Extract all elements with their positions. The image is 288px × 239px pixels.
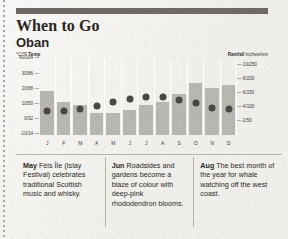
axis-tick-label: 30/86 — xyxy=(22,72,39,77)
axis-tick-label: — 6/150 xyxy=(237,91,254,96)
page-background: When to Go Oban °C/°F Temp Rainfall Inch… xyxy=(0,0,288,239)
month-label: F xyxy=(56,138,73,148)
month-label: M xyxy=(72,138,89,148)
axis-tick-label: — 8/200 xyxy=(237,77,254,82)
rainfall-bar xyxy=(189,83,203,136)
month-column xyxy=(155,59,172,135)
month-column xyxy=(138,59,155,135)
month-note: Aug The best month of the year for whale… xyxy=(193,155,282,229)
page-subtitle: Oban xyxy=(16,35,49,50)
bars-container xyxy=(39,59,237,135)
climate-chart: °C/°F Temp Rainfall Inches/mm 40/104 —30… xyxy=(16,52,268,150)
rainfall-bar xyxy=(123,110,137,135)
month-notes: May Fèis Île (Islay Festival) celebrates… xyxy=(16,155,282,229)
month-label: S xyxy=(171,138,188,148)
rainfall-axis: — 10/250— 8/200— 6/150— 4/100— 2/50 xyxy=(237,59,268,135)
temperature-dot xyxy=(93,103,100,110)
month-label: A xyxy=(155,138,172,148)
month-column xyxy=(204,59,221,135)
temperature-dot xyxy=(209,104,216,111)
header-rule xyxy=(16,8,268,14)
month-axis: JFMAMJJASOND xyxy=(39,138,237,148)
axis-tick-label: 40/104 — xyxy=(19,56,39,61)
month-column xyxy=(105,59,122,135)
month-note-month: Jun xyxy=(112,161,125,170)
month-column xyxy=(72,59,89,135)
temperature-dot xyxy=(77,106,84,113)
month-note-month: Aug xyxy=(200,161,214,170)
axis-tick-label: — 4/100 xyxy=(237,105,254,110)
month-label: N xyxy=(204,138,221,148)
temperature-dot xyxy=(143,94,150,101)
month-note: Jun Roadsides and gardens become a blaze… xyxy=(105,155,194,229)
month-note-month: May xyxy=(23,161,37,170)
rainfall-bar xyxy=(156,102,170,135)
month-column xyxy=(122,59,139,135)
month-note: May Fèis Île (Islay Festival) celebrates… xyxy=(16,155,105,229)
axis-tick-label: 10/50 — xyxy=(22,102,39,107)
rainfall-legend: Rainfall Inches/mm xyxy=(228,52,268,57)
month-column xyxy=(56,59,73,135)
axis-tick-label: 20/68 — xyxy=(22,87,39,92)
temperature-dot xyxy=(192,100,199,107)
page-title: When to Go xyxy=(16,17,100,35)
plot-area xyxy=(39,59,237,135)
month-column xyxy=(39,59,56,135)
rainfall-bar xyxy=(139,105,153,135)
axis-tick-label: — 10/250 xyxy=(237,63,257,68)
temperature-dot xyxy=(126,95,133,102)
month-label: J xyxy=(39,138,56,148)
month-label: J xyxy=(138,138,155,148)
month-column xyxy=(171,59,188,135)
temperature-dot xyxy=(60,107,67,114)
temperature-dot xyxy=(159,94,166,101)
axis-tick-label: 0/32 — xyxy=(24,117,39,122)
temperature-dot xyxy=(176,97,183,104)
month-column xyxy=(188,59,205,135)
axis-tick-label: — 2/50 xyxy=(237,119,252,124)
month-column xyxy=(89,59,106,135)
rainfall-bar xyxy=(106,113,120,135)
month-label: D xyxy=(221,138,238,148)
binding-margin-dots xyxy=(3,0,5,239)
axis-tick-label: -10/14 — xyxy=(20,132,39,137)
month-column xyxy=(221,59,238,135)
rainfall-legend-unit: Inches/mm xyxy=(246,52,268,57)
month-label: M xyxy=(105,138,122,148)
rainfall-bar xyxy=(90,113,104,135)
temperature-dot xyxy=(225,106,232,113)
month-label: O xyxy=(188,138,205,148)
rainfall-legend-label: Rainfall xyxy=(228,52,245,57)
rainfall-bar xyxy=(205,88,219,135)
temperature-dot xyxy=(44,107,51,114)
temperature-dot xyxy=(110,98,117,105)
temp-axis: 40/104 —30/86 —20/68 —10/50 —0/32 —-10/1… xyxy=(16,59,39,135)
month-label: J xyxy=(122,138,139,148)
month-label: A xyxy=(89,138,106,148)
